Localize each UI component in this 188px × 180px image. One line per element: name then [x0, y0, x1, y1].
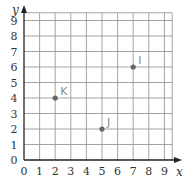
point-label: J	[106, 116, 110, 129]
x-tick-label: 4	[83, 165, 90, 178]
x-axis-arrow-icon	[174, 157, 182, 163]
y-axis-arrow-icon	[21, 5, 27, 13]
y-tick-label: 2	[11, 123, 18, 136]
y-tick-label: 4	[11, 92, 18, 105]
point-marker	[53, 95, 58, 100]
x-tick-label: 3	[67, 165, 74, 178]
grid-lines	[24, 13, 172, 160]
x-tick-labels: 0123456789	[21, 165, 168, 178]
point-label: K	[60, 85, 68, 98]
y-tick-labels: 0123456789	[11, 15, 18, 168]
y-tick-label: 8	[11, 30, 18, 43]
y-tick-label: 3	[11, 108, 18, 121]
x-tick-label: 1	[36, 165, 43, 178]
y-tick-label: 5	[11, 77, 18, 90]
x-tick-label: 5	[99, 165, 106, 178]
point-marker	[131, 64, 136, 69]
axes: x y	[11, 3, 183, 179]
y-tick-label: 6	[11, 61, 18, 74]
point-marker	[99, 126, 104, 131]
x-tick-label: 6	[114, 165, 121, 178]
x-tick-label: 9	[161, 165, 168, 178]
x-tick-label: 2	[52, 165, 59, 178]
y-tick-label: 0	[11, 154, 18, 167]
x-tick-label: 7	[130, 165, 137, 178]
coordinate-grid-chart: x y 0123456789 0123456789 KJI	[0, 0, 188, 180]
point-label: I	[138, 54, 141, 67]
y-tick-label: 1	[11, 139, 18, 152]
y-tick-label: 9	[11, 15, 18, 28]
data-points: KJI	[53, 54, 142, 132]
y-tick-label: 7	[11, 46, 18, 59]
x-axis-label: x	[176, 165, 183, 179]
x-tick-label: 0	[21, 165, 28, 178]
x-tick-label: 8	[145, 165, 152, 178]
